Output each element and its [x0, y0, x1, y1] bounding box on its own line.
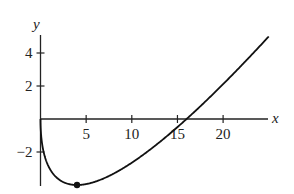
y-tick-label: 2	[25, 78, 33, 94]
function-curve	[41, 37, 269, 186]
x-tick-label: 10	[124, 126, 139, 142]
y-tick-label: −2	[17, 144, 33, 160]
x-tick-label: 5	[82, 126, 90, 142]
chart: x y 5101520 −224	[0, 0, 294, 194]
x-tick-label: 15	[170, 126, 185, 142]
axes: x y	[31, 16, 279, 186]
minimum-point-marker	[74, 182, 80, 188]
plot-area: x y 5101520 −224	[0, 0, 294, 194]
y-tick-label: 4	[25, 45, 33, 61]
x-tick-label: 20	[216, 126, 231, 142]
x-axis-label: x	[271, 110, 279, 126]
y-axis-label: y	[31, 16, 40, 32]
